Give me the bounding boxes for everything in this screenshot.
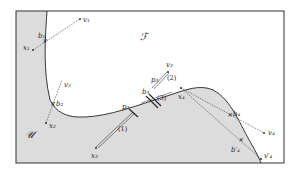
label-v4: v₄ [268, 129, 275, 137]
free-region-label: ℱ [140, 31, 150, 42]
label-x1: x₁ [23, 44, 30, 52]
label-b3: b₃ [142, 88, 149, 96]
step-1-label: (1) [118, 125, 128, 133]
label-b2: b₂ [56, 100, 63, 108]
step-3-label: (3) [157, 94, 167, 102]
label-v3: v₃ [166, 61, 173, 69]
label-x4: x₄ [178, 93, 185, 101]
diagram-canvas: ℱ 𝒰 ✕ x₁ b₁ v₁ ✕ x₂ b₂ v₂ x₃ p₃ (1) v₃ p… [0, 0, 300, 171]
label-p3-lower: p₃ [122, 103, 129, 111]
label-v1: v₁ [83, 16, 90, 24]
label-v4-prime: v′₄ [264, 152, 273, 160]
label-x3: x₃ [91, 152, 98, 160]
label-b1: b₁ [38, 32, 45, 40]
label-b4-prime: b′₄ [231, 146, 240, 154]
step-2-label: (2) [167, 74, 177, 82]
unsafe-region [16, 11, 261, 163]
label-x2: x₂ [49, 122, 56, 130]
label-p3-upper: p₃ [151, 76, 158, 84]
label-v2: v₂ [64, 81, 71, 89]
label-b4: b₄ [233, 110, 240, 118]
